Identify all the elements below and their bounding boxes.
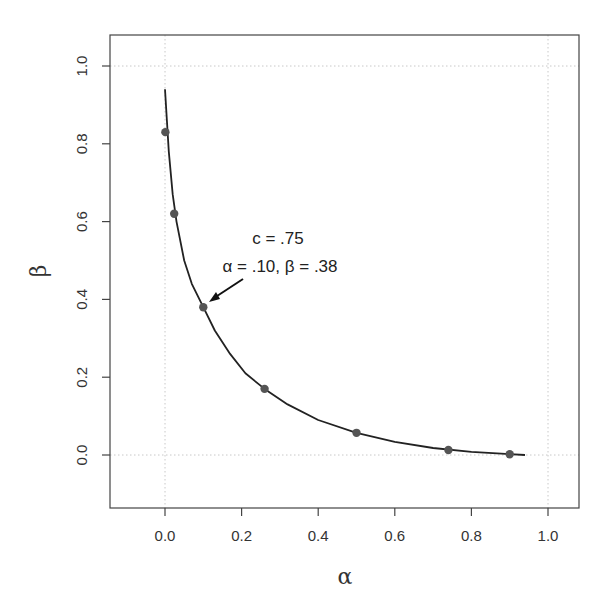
y-tick-label: 1.0 (73, 56, 90, 77)
annotation: c = .75 α = .10, β = .38 (209, 229, 338, 302)
x-tick-label: 0.2 (231, 527, 252, 544)
plot-frame (110, 35, 579, 508)
data-point (199, 303, 207, 311)
data-points (161, 128, 514, 458)
data-point (352, 429, 360, 437)
y-tick-label: 0.0 (73, 445, 90, 466)
y-tick-label: 0.4 (73, 289, 90, 310)
x-axis-ticks: 0.00.20.40.60.81.0 (155, 508, 559, 544)
data-point (161, 128, 169, 136)
x-axis-title: α (338, 564, 353, 589)
x-tick-label: 0.0 (155, 527, 176, 544)
x-tick-label: 0.4 (308, 527, 329, 544)
y-axis-title: β (26, 265, 51, 278)
x-tick-label: 0.6 (384, 527, 405, 544)
data-point (506, 450, 514, 458)
annotation-line2: α = .10, β = .38 (222, 257, 337, 276)
x-tick-label: 0.8 (461, 527, 482, 544)
y-tick-label: 0.8 (73, 133, 90, 154)
annotation-line1: c = .75 (252, 229, 304, 248)
y-tick-label: 0.6 (73, 211, 90, 232)
curve (165, 89, 525, 455)
arrow-icon (209, 279, 243, 302)
x-tick-label: 1.0 (538, 527, 559, 544)
y-tick-label: 0.2 (73, 367, 90, 388)
data-point (170, 210, 178, 218)
chart: 0.00.20.40.60.81.0 0.00.20.40.60.81.0 α … (0, 0, 609, 612)
curve-line (165, 89, 525, 455)
grid-lines (110, 35, 579, 508)
data-point (444, 446, 452, 454)
data-point (260, 385, 268, 393)
y-axis-ticks: 0.00.20.40.60.81.0 (73, 56, 110, 466)
